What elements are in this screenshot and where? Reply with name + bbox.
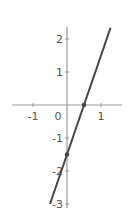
y-tick-label: 2	[56, 33, 63, 46]
intercept-point	[65, 152, 69, 156]
x-tick-label: -1	[28, 110, 39, 123]
x-tick-label: 0	[55, 110, 62, 123]
tick-labels: -101-3-2-112	[28, 33, 105, 210]
y-tick-label: -3	[52, 198, 63, 210]
x-tick-label: 1	[98, 110, 105, 123]
y-tick-label: -1	[52, 132, 63, 145]
intercept-point	[82, 103, 86, 107]
y-tick-label: 1	[56, 66, 63, 79]
line-chart: -101-3-2-112	[0, 0, 128, 210]
